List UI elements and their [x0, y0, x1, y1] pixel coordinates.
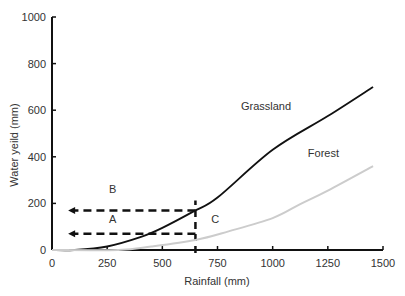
x-tick-label: 500 [153, 257, 171, 269]
x-tick-label: 1250 [316, 257, 340, 269]
y-tick-label: 200 [28, 197, 46, 209]
arrowhead-icon [68, 207, 75, 214]
x-tick-label: 1500 [371, 257, 395, 269]
reference-lines [68, 200, 195, 253]
x-axis-title: Rainfall (mm) [184, 275, 249, 287]
annotation-grassland: Grassland [241, 100, 291, 112]
y-tick-label: 400 [28, 151, 46, 163]
annotation-c: C [211, 213, 219, 225]
y-tick-label: 800 [28, 58, 46, 70]
annotations: GrasslandForestBAC [109, 100, 339, 225]
x-tick-label: 250 [98, 257, 116, 269]
annotation-a: A [109, 213, 117, 225]
annotation-forest: Forest [308, 147, 339, 159]
x-tick-label: 750 [208, 257, 226, 269]
water-yield-chart: 020040060080010000250500750100012501500 … [0, 0, 405, 296]
arrowhead-icon [68, 230, 75, 237]
series-grassland [52, 87, 373, 250]
x-tick-label: 0 [49, 257, 55, 269]
y-tick-label: 1000 [22, 11, 46, 23]
x-tick-label: 1000 [260, 257, 284, 269]
annotation-b: B [109, 183, 116, 195]
y-axis-title: Water yeild (mm) [8, 103, 20, 186]
y-tick-label: 600 [28, 104, 46, 116]
y-tick-label: 0 [40, 244, 46, 256]
series-forest [52, 166, 373, 250]
axes: 020040060080010000250500750100012501500 [22, 11, 396, 269]
series-group [52, 87, 373, 250]
